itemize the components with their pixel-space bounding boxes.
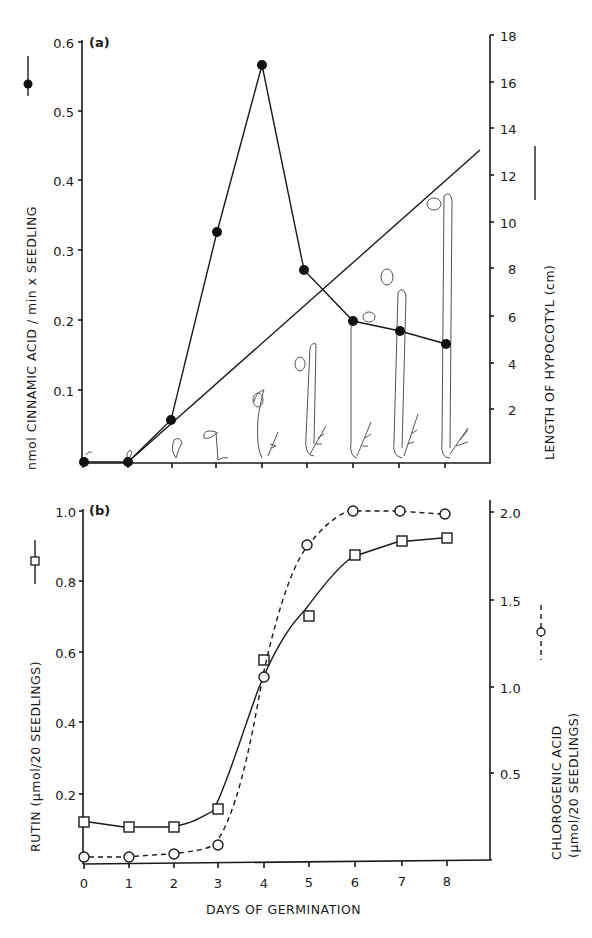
b-right-ticks: 0.5 1.0 1.5 2.0 — [490, 506, 521, 782]
b-right-tick-label: 1.5 — [500, 594, 521, 609]
b-left-tick-label: 0.6 — [55, 646, 76, 661]
seedling-drawings — [86, 194, 468, 460]
svg-text:RUTIN (µmol/20 SEEDLINGS): RUTIN (µmol/20 SEEDLINGS) — [28, 661, 43, 852]
b-x-axis — [83, 860, 492, 864]
cinnamic-acid-line — [84, 65, 446, 462]
b-right-legend-marker — [537, 605, 545, 660]
a-right-tick-label: 8 — [508, 262, 516, 277]
a-right-tick-label: 6 — [508, 310, 516, 325]
x-tick-label: 8 — [443, 874, 451, 889]
a-left-tick-label: 0.2 — [53, 314, 74, 329]
svg-text:(µmol/20 SEEDLINGS): (µmol/20 SEEDLINGS) — [566, 712, 581, 858]
b-right-tick-label: 2.0 — [500, 506, 521, 521]
panel-a-label: (a) — [89, 35, 110, 50]
chlorogenic-acid-markers — [79, 506, 450, 862]
a-right-tick-label: 10 — [500, 216, 517, 231]
a-left-tick-label: 0.5 — [53, 105, 74, 120]
x-tick-label: 2 — [170, 876, 178, 891]
x-tick-label: 1 — [125, 876, 133, 891]
b-left-tick-label: 1.0 — [55, 505, 76, 520]
rutin-markers — [79, 533, 452, 832]
x-tick-label: 6 — [351, 875, 359, 890]
x-tick-label: 7 — [398, 874, 406, 889]
panel-b: 0.2 0.4 0.6 0.8 1.0 0.5 1.0 1.5 2.0 — [28, 500, 581, 917]
b-right-tick-label: 1.0 — [500, 681, 521, 696]
b-right-axis-subtitle: (µmol/20 SEEDLINGS) — [566, 712, 581, 858]
b-left-legend-marker — [31, 540, 39, 584]
panel-b-label: (b) — [89, 503, 110, 518]
figure: 0.1 0.2 0.3 0.4 0.5 0.6 2 4 6 8 10 12 14… — [0, 0, 592, 938]
a-left-tick-label: 0.4 — [53, 174, 74, 189]
a-left-tick-label: 0.6 — [53, 36, 74, 51]
hypocotyl-length-line — [128, 150, 480, 462]
a-left-tick-label: 0.3 — [53, 244, 74, 259]
chlorogenic-acid-curve — [89, 511, 442, 857]
a-left-ticks: 0.1 0.2 0.3 0.4 0.5 0.6 — [53, 36, 82, 399]
b-right-tick-label: 0.5 — [500, 767, 521, 782]
x-tick-label: 4 — [260, 876, 268, 891]
a-right-axis-title: LENGTH OF HYPOCOTYL (cm) — [542, 265, 557, 460]
a-right-tick-label: 14 — [500, 122, 517, 137]
rutin-curve — [89, 538, 442, 827]
b-x-ticks: 0 1 2 3 4 5 6 7 8 — [80, 861, 451, 891]
svg-text:CHLOROGENIC ACID: CHLOROGENIC ACID — [549, 725, 564, 860]
x-tick-label: 3 — [214, 876, 222, 891]
a-right-tick-label: 2 — [508, 403, 516, 418]
panel-a: 0.1 0.2 0.3 0.4 0.5 0.6 2 4 6 8 10 12 14… — [24, 29, 558, 470]
b-left-axis-title: RUTIN (µmol/20 SEEDLINGS) — [28, 661, 43, 852]
a-right-tick-label: 12 — [500, 169, 517, 184]
a-left-axis-title: nmol CINNAMIC ACID / min x SEEDLING — [24, 206, 39, 470]
x-axis-title: DAYS OF GERMINATION — [206, 902, 361, 917]
a-right-ticks: 2 4 6 8 10 12 14 16 18 — [490, 29, 517, 418]
a-left-legend-marker — [24, 56, 33, 96]
svg-text:nmol CINNAMIC ACID / min x SEE: nmol CINNAMIC ACID / min x SEEDLING — [24, 206, 39, 470]
a-right-tick-label: 16 — [500, 76, 517, 91]
a-right-tick-label: 4 — [508, 357, 516, 372]
a-left-tick-label: 0.1 — [53, 384, 74, 399]
b-left-ticks: 0.2 0.4 0.6 0.8 1.0 — [55, 505, 83, 803]
svg-text:LENGTH OF HYPOCOTYL (cm): LENGTH OF HYPOCOTYL (cm) — [542, 265, 557, 460]
b-right-axis-title: CHLOROGENIC ACID — [549, 725, 564, 860]
b-left-tick-label: 0.2 — [55, 788, 76, 803]
b-left-tick-label: 0.4 — [55, 716, 76, 731]
x-tick-label: 5 — [305, 875, 313, 890]
b-left-tick-label: 0.8 — [55, 575, 76, 590]
a-right-tick-label: 18 — [500, 29, 517, 44]
x-tick-label: 0 — [80, 876, 88, 891]
